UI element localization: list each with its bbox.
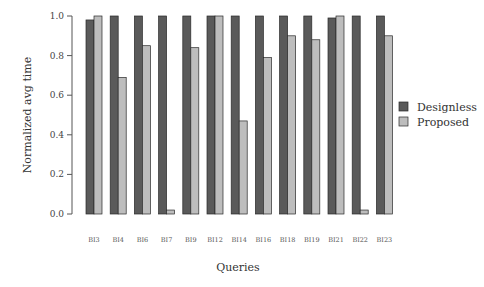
x-tick-label: BI18: [280, 236, 296, 244]
x-tick-label: BI6: [137, 236, 148, 244]
x-tick-label: BI19: [304, 236, 320, 244]
bar-proposed-bi3: [94, 16, 102, 214]
bar-designless-bi19: [304, 16, 312, 214]
bar-designless-bi7: [159, 16, 167, 214]
bar-proposed-bi6: [142, 46, 150, 214]
bar-proposed-bi9: [191, 48, 199, 214]
bar-designless-bi4: [110, 16, 118, 214]
bar-designless-bi9: [183, 16, 191, 214]
bar-chart: 0.00.20.40.60.81.0 BI3BI4BI6BI7BI9BI12BI…: [0, 0, 484, 287]
bar-designless-bi23: [376, 16, 384, 214]
legend-swatch-proposed: [399, 117, 408, 126]
x-tick-label: BI12: [207, 236, 223, 244]
bar-proposed-bi12: [215, 16, 223, 214]
legend-swatch-designless: [399, 102, 408, 111]
bar-designless-bi21: [328, 18, 336, 214]
y-tick-label: 0.0: [50, 209, 65, 219]
x-tick-label: BI14: [231, 236, 247, 244]
x-tick-label: BI21: [328, 236, 344, 244]
x-tick-label: BI3: [88, 236, 99, 244]
bar-designless-bi12: [207, 16, 215, 214]
bar-proposed-bi4: [118, 77, 126, 214]
x-axis-title: Queries: [216, 261, 260, 274]
y-tick-label: 1.0: [50, 11, 65, 21]
y-tick-label: 0.2: [50, 169, 64, 179]
y-axis: 0.00.20.40.60.81.0: [50, 11, 72, 219]
y-tick-label: 0.8: [50, 51, 65, 61]
legend-label-proposed: Proposed: [417, 116, 469, 129]
x-tick-label: BI4: [112, 236, 123, 244]
bar-proposed-bi19: [312, 40, 320, 214]
bar-proposed-bi22: [360, 210, 368, 214]
x-tick-label: BI7: [161, 236, 172, 244]
bar-proposed-bi14: [239, 121, 247, 214]
bar-designless-bi14: [231, 16, 239, 214]
bars: [86, 16, 392, 214]
bar-proposed-bi23: [384, 36, 392, 214]
x-tick-label: BI16: [256, 236, 272, 244]
bar-designless-bi6: [134, 16, 142, 214]
x-tick-label: BI23: [377, 236, 393, 244]
bar-designless-bi22: [352, 16, 360, 214]
bar-proposed-bi18: [288, 36, 296, 214]
legend: DesignlessProposed: [399, 101, 477, 129]
y-tick-label: 0.6: [50, 90, 65, 100]
bar-proposed-bi7: [167, 210, 175, 214]
bar-designless-bi16: [255, 16, 263, 214]
x-axis-labels: BI3BI4BI6BI7BI9BI12BI14BI16BI18BI19BI21B…: [88, 236, 392, 244]
y-axis-title: Normalized avg time: [21, 57, 34, 174]
y-tick-label: 0.4: [50, 130, 65, 140]
bar-proposed-bi21: [336, 16, 344, 214]
bar-proposed-bi16: [263, 58, 271, 214]
legend-label-designless: Designless: [417, 101, 477, 114]
x-tick-label: BI22: [352, 236, 368, 244]
bar-designless-bi3: [86, 20, 94, 214]
x-tick-label: BI9: [185, 236, 196, 244]
bar-designless-bi18: [280, 16, 288, 214]
